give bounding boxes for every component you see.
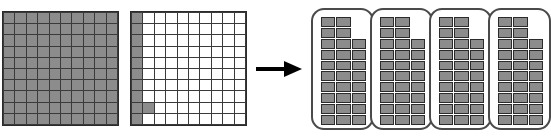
hundred-square-partial-cell-r9-c2 [143, 103, 153, 113]
group-3-cell-r6-c3 [470, 71, 484, 81]
hundred-square-full-cell-r9-c5 [50, 103, 60, 113]
hundred-square-partial-cell-r10-c4 [166, 114, 176, 124]
hundred-square-full-cell-r1-c6 [61, 13, 71, 23]
hundred-square-full-cell-r3-c2 [15, 35, 25, 45]
group-2-cell-r5-c2 [395, 61, 409, 71]
group-3-cell-r1-c1 [439, 17, 453, 27]
group-1-cell-r10-c3 [352, 115, 366, 125]
hundred-square-full-cell-r1-c2 [15, 13, 25, 23]
hundred-square-partial-cell-r7-c8 [212, 80, 222, 90]
hundred-square-full-cell-r4-c7 [72, 47, 82, 57]
hundred-square-partial-cell-r5-c9 [223, 58, 233, 68]
group-3-cell-r8-c1 [439, 93, 453, 103]
group-1-cell-r4-c2 [336, 50, 350, 60]
group-3-cell-r8-c2 [454, 93, 468, 103]
hundred-square-partial-cell-r4-c2 [143, 47, 153, 57]
hundred-square-full-cell-r7-c3 [27, 80, 37, 90]
hundred-square-partial-cell-r3-c10 [235, 35, 245, 45]
group-2-cell-r9-c2 [395, 104, 409, 114]
hundred-square-full-cell-r10-c9 [95, 114, 105, 124]
group-4-cell-r7-c2 [513, 82, 527, 92]
hundred-square-full-cell-r1-c7 [72, 13, 82, 23]
group-4-cell-r1-c1 [498, 17, 512, 27]
group-3-cell-r5-c2 [454, 61, 468, 71]
group-4-cell-r2-c1 [498, 28, 512, 38]
hundred-square-full-cell-r10-c10 [107, 114, 117, 124]
hundred-square-partial-cell-r3-c5 [178, 35, 188, 45]
hundred-square-partial-cell-r7-c1 [132, 80, 142, 90]
hundred-square-full-cell-r1-c4 [38, 13, 48, 23]
hundred-square-full-cell-r4-c10 [107, 47, 117, 57]
group-2-cell-r9-c1 [380, 104, 394, 114]
group-2-cell-r5-c3 [411, 61, 425, 71]
hundred-square-full-cell-r6-c1 [4, 69, 14, 79]
group-2-cell-r4-c2 [395, 50, 409, 60]
hundred-square-partial-cell-r5-c2 [143, 58, 153, 68]
hundred-square-full-cell-r3-c6 [61, 35, 71, 45]
group-3-cell-r4-c3 [470, 50, 484, 60]
group-3-cell-r10-c3 [470, 115, 484, 125]
group-3-cell-r9-c2 [454, 104, 468, 114]
hundred-square-partial-cell-r8-c4 [166, 91, 176, 101]
hundred-square-full-cell-r8-c3 [27, 91, 37, 101]
hundred-square-full-cell-r9-c6 [61, 103, 71, 113]
hundred-square-partial-cell-r8-c1 [132, 91, 142, 101]
group-box-3 [429, 8, 492, 130]
hundred-square-full-cell-r10-c5 [50, 114, 60, 124]
group-2-cell-r9-c3 [411, 104, 425, 114]
group-box-2 [370, 8, 433, 130]
group-4-cell-r4-c1 [498, 50, 512, 60]
group-4-cell-r1-c2 [513, 17, 527, 27]
group-2-cell-r1-c2 [395, 17, 409, 27]
group-2-cell-r10-c3 [411, 115, 425, 125]
hundred-square-partial-cell-r5-c1 [132, 58, 142, 68]
hundred-square-partial-cell-r8-c3 [155, 91, 165, 101]
group-1-cell-r8-c2 [336, 93, 350, 103]
hundred-square-partial-cell-r1-c9 [223, 13, 233, 23]
hundred-square-partial-cell-r4-c6 [189, 47, 199, 57]
hundred-square-full-cell-r1-c3 [27, 13, 37, 23]
hundred-square-partial-cell-r3-c6 [189, 35, 199, 45]
hundred-square-full-cell-r6-c8 [84, 69, 94, 79]
hundred-square-partial-cell-r5-c5 [178, 58, 188, 68]
group-3-cell-r4-c1 [439, 50, 453, 60]
group-2-cell-r2-c1 [380, 28, 394, 38]
hundred-square-partial-cell-r8-c2 [143, 91, 153, 101]
group-4-cell-r9-c2 [513, 104, 527, 114]
group-1-cell-r8-c3 [352, 93, 366, 103]
hundred-square-partial-cell-r4-c9 [223, 47, 233, 57]
hundred-square-partial-cell-r7-c7 [200, 80, 210, 90]
hundred-square-full-cell-r6-c5 [50, 69, 60, 79]
group-2-cell-r4-c3 [411, 50, 425, 60]
hundred-square-partial-cell-r1-c7 [200, 13, 210, 23]
hundred-square-full-cell-r2-c8 [84, 24, 94, 34]
hundred-square-full-cell-r2-c7 [72, 24, 82, 34]
hundred-square-full-cell-r3-c9 [95, 35, 105, 45]
group-1-cell-r2-c1 [321, 28, 335, 38]
hundred-square-full-cell-r8-c2 [15, 91, 25, 101]
group-2-cell-r2-c2 [395, 28, 409, 38]
hundred-square-full-cell-r6-c6 [61, 69, 71, 79]
hundred-square-partial-cell-r3-c3 [155, 35, 165, 45]
hundred-square-full-cell-r10-c2 [15, 114, 25, 124]
hundred-square-full-cell-r2-c3 [27, 24, 37, 34]
group-2-cell-r3-c2 [395, 39, 409, 49]
hundred-square-full-cell-r8-c4 [38, 91, 48, 101]
hundred-square-partial-cell-r3-c7 [200, 35, 210, 45]
hundred-square-full-cell-r3-c8 [84, 35, 94, 45]
hundred-square-full-cell-r1-c1 [4, 13, 14, 23]
hundred-square-partial-cell-r7-c5 [178, 80, 188, 90]
hundred-square-full-cell-r8-c7 [72, 91, 82, 101]
hundred-square-full-cell-r5-c9 [95, 58, 105, 68]
hundred-square-partial-cell-r8-c5 [178, 91, 188, 101]
group-1-cell-r3-c2 [336, 39, 350, 49]
group-1-cell-r7-c1 [321, 82, 335, 92]
group-1-cell-r9-c3 [352, 104, 366, 114]
hundred-square-partial-cell-r1-c2 [143, 13, 153, 23]
group-4-cell-r2-c2 [513, 28, 527, 38]
hundred-square-full-cell-r8-c5 [50, 91, 60, 101]
hundred-square-partial-cell-r7-c9 [223, 80, 233, 90]
group-3-cell-r10-c1 [439, 115, 453, 125]
hundred-square-partial [130, 11, 247, 126]
hundred-square-full-cell-r7-c4 [38, 80, 48, 90]
